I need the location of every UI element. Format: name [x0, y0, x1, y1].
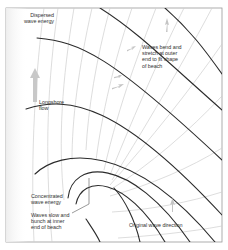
label-longshore-flow: Longshore flow: [39, 99, 64, 111]
shoreline-shading: [6, 8, 28, 242]
label-waves-slow-bunch: Waves slow and bunch at inner end of bea…: [31, 212, 69, 231]
label-dispersed-wave-energy: Dispersed wave energy: [10, 12, 54, 24]
label-concentrated-wave-energy: Concentrated wave energy: [31, 193, 63, 205]
label-original-wave-direction: Original wave direction: [129, 222, 182, 228]
diagram-frame: [6, 8, 222, 242]
label-waves-bend-stretch: Waves bend and stretch at outer end to f…: [142, 44, 182, 69]
